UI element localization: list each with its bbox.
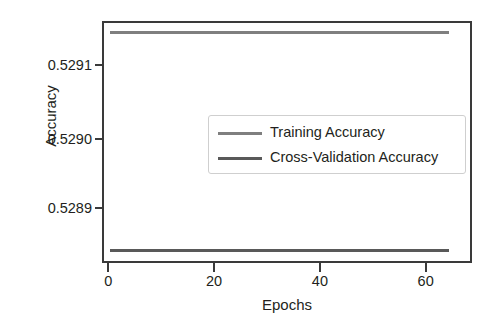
x-tick-mark-40 [319,263,321,272]
x-tick-label-0: 0 [78,274,138,289]
legend-entry-training-accuracy: Training Accuracy [209,121,465,145]
x-tick-mark-0 [107,263,109,272]
y-tick-label-0.5289: 0.5289 [0,201,92,216]
chart-legend: Training Accuracy Cross-Validation Accur… [208,115,466,174]
series-line-training-accuracy [110,31,448,34]
y-axis-label: Accuracy [42,56,59,176]
x-axis-label: Epochs [102,296,472,313]
legend-label-cross-validation-accuracy: Cross-Validation Accuracy [270,149,438,166]
x-tick-mark-60 [425,263,427,272]
legend-swatch-cross-validation-accuracy [218,157,262,160]
x-tick-label-40: 40 [290,274,350,289]
x-tick-label-20: 20 [184,274,244,289]
series-line-cross-validation-accuracy [110,249,448,252]
y-tick-label-0.5291: 0.5291 [0,58,92,73]
legend-label-training-accuracy: Training Accuracy [270,124,385,141]
legend-swatch-training-accuracy [218,132,262,135]
x-tick-mark-20 [213,263,215,272]
chart-figure: Accuracy 0.5291 0.5290 0.5289 0 20 40 60… [0,0,488,325]
y-tick-label-0.5290: 0.5290 [0,132,92,147]
legend-entry-cross-validation-accuracy: Cross-Validation Accuracy [209,146,465,170]
x-tick-label-60: 60 [396,274,456,289]
